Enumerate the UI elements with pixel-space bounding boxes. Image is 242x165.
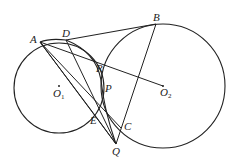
label-b: B: [153, 11, 160, 23]
label-a: A: [29, 33, 37, 45]
label-o1-sub: 1: [61, 93, 65, 101]
label-o1: O1: [53, 87, 65, 101]
label-o1-main: O: [53, 87, 61, 99]
line-e-q: [97, 118, 116, 144]
label-c: C: [124, 120, 132, 132]
tangent-ab: [40, 24, 156, 42]
label-r: R: [95, 62, 103, 74]
label-o2: O2: [160, 86, 172, 100]
label-p: P: [104, 82, 112, 94]
label-e: E: [89, 114, 97, 126]
label-d: D: [61, 27, 70, 39]
geometry-diagram: A D B R P E C Q O1 O2: [0, 0, 242, 165]
line-b-q: [116, 24, 156, 144]
label-o2-main: O: [160, 86, 168, 98]
label-q: Q: [112, 145, 120, 157]
label-o2-sub: 2: [168, 92, 172, 100]
